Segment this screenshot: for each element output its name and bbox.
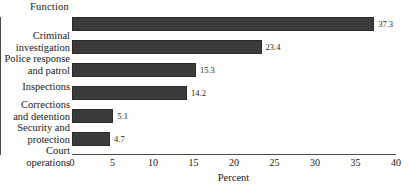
bar <box>72 63 196 77</box>
category-label: Corrections and detention <box>0 99 70 122</box>
bar-row: 23.4 <box>72 40 396 54</box>
bar <box>72 86 187 100</box>
category-label-column: Criminal investigationPolice response an… <box>0 34 70 172</box>
x-tick-label: 10 <box>148 157 158 169</box>
plot-area: Criminal investigationPolice response an… <box>72 17 396 155</box>
bar-row: 15.3 <box>72 63 396 77</box>
x-axis-title-text: Percent <box>218 172 250 183</box>
bar-value-label: 5.1 <box>117 111 128 121</box>
bar-value-label: 23.4 <box>266 42 281 52</box>
x-tick-label: 0 <box>70 157 75 169</box>
category-label: Court operations <box>0 145 70 168</box>
x-tick-label: 25 <box>270 157 280 169</box>
bar-row: 14.2 <box>72 86 396 100</box>
bar <box>72 17 374 31</box>
bar <box>72 132 110 146</box>
bar-row: 37.3 <box>72 17 396 31</box>
bar-value-label: 14.2 <box>191 88 206 98</box>
x-axis-title: Percent <box>0 172 409 184</box>
bar-value-label: 4.7 <box>114 134 125 144</box>
bar-row: 5.1 <box>72 109 396 123</box>
bar-value-label: 37.3 <box>378 19 393 29</box>
bar <box>72 40 262 54</box>
category-label: Police response and patrol <box>0 53 70 76</box>
x-tick-label: 15 <box>189 157 199 169</box>
bar-row: 4.7 <box>72 132 396 146</box>
x-tick-label: 5 <box>110 157 115 169</box>
bar <box>72 109 113 123</box>
x-tick-label: 30 <box>310 157 320 169</box>
bar-chart: Function Criminal investigationPolice re… <box>0 0 409 191</box>
category-axis-title: Function <box>30 1 69 13</box>
category-label: Inspections <box>0 81 70 93</box>
x-tick-label: 40 <box>391 157 401 169</box>
category-label: Security and protection <box>0 122 70 145</box>
x-tick-label: 35 <box>351 157 361 169</box>
category-label: Criminal investigation <box>0 30 70 53</box>
x-tick-label: 20 <box>229 157 239 169</box>
bar-value-label: 15.3 <box>200 65 215 75</box>
